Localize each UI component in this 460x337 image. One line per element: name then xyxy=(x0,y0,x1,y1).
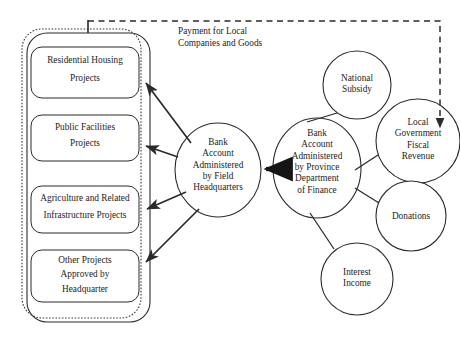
local-revenue-line-4: Revenue xyxy=(378,151,458,162)
field-hq-line-3: Administered xyxy=(174,160,262,171)
interest-income-line-2: Income xyxy=(317,278,397,289)
field-hq-line-1: Bank xyxy=(174,137,262,148)
node-bank-account-province-department-of-finance[interactable]: Bank Account Administered by Province De… xyxy=(273,128,361,196)
residential-housing-line-1: Residential Housing xyxy=(33,55,137,66)
diagram-canvas: Payment for Local Companies and Goods Re… xyxy=(0,0,460,337)
province-line-3: Administered xyxy=(273,151,361,162)
residential-housing-line-2: Projects xyxy=(33,73,137,84)
province-line-2: Account xyxy=(273,139,361,150)
project-box-agriculture-infrastructure[interactable]: Agriculture and Related Infrastructure P… xyxy=(31,193,139,222)
project-box-other-projects[interactable]: Other Projects Approved by Headquarter xyxy=(33,255,137,295)
project-box-public-facilities[interactable]: Public Facilities Projects xyxy=(33,122,137,150)
field-hq-line-4: by Field xyxy=(174,171,262,182)
payment-note-line-1: Payment for Local xyxy=(178,26,318,38)
node-bank-account-field-headquarters[interactable]: Bank Account Administered by Field Headq… xyxy=(174,137,262,194)
project-box-residential-housing[interactable]: Residential Housing Projects xyxy=(33,55,137,85)
interest-income-line-1: Interest xyxy=(317,267,397,278)
donations-line-1: Donations xyxy=(371,211,451,222)
province-line-1: Bank xyxy=(273,128,361,139)
national-subsidy-line-1: National xyxy=(317,73,397,84)
local-revenue-line-3: Fiscal xyxy=(378,140,458,151)
province-line-6: of Finance xyxy=(273,185,361,196)
other-projects-line-2: Approved by xyxy=(33,269,137,280)
payment-note-line-2: Companies and Goods xyxy=(178,38,318,50)
province-line-4: by Province xyxy=(273,162,361,173)
local-revenue-line-2: Government xyxy=(378,128,458,139)
public-facilities-line-2: Projects xyxy=(33,138,137,149)
agriculture-line-1: Agriculture and Related xyxy=(31,193,139,204)
public-facilities-line-1: Public Facilities xyxy=(33,122,137,133)
node-interest-income[interactable]: Interest Income xyxy=(317,267,397,290)
agriculture-line-2: Infrastructure Projects xyxy=(31,210,139,221)
field-hq-line-5: Headquarters xyxy=(174,182,262,193)
payment-note-annotation: Payment for Local Companies and Goods xyxy=(178,26,318,49)
node-donations[interactable]: Donations xyxy=(371,211,451,222)
node-national-subsidy[interactable]: National Subsidy xyxy=(317,73,397,96)
other-projects-line-1: Other Projects xyxy=(33,255,137,266)
province-line-5: Department xyxy=(273,173,361,184)
node-local-government-fiscal-revenue[interactable]: Local Government Fiscal Revenue xyxy=(378,117,458,162)
field-hq-line-2: Account xyxy=(174,148,262,159)
other-projects-line-3: Headquarter xyxy=(33,284,137,295)
national-subsidy-line-2: Subsidy xyxy=(317,84,397,95)
local-revenue-line-1: Local xyxy=(378,117,458,128)
